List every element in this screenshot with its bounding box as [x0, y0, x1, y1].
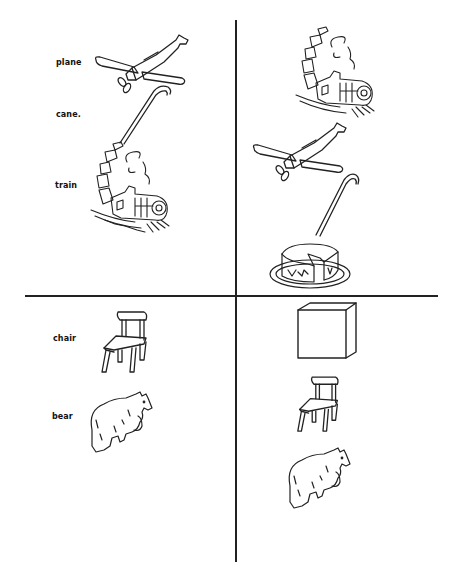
cane-picture — [314, 172, 364, 237]
worksheet-page: plane cane. train — [0, 0, 460, 581]
cake-picture — [268, 240, 353, 290]
label-plane: plane — [56, 58, 82, 67]
vertical-divider — [235, 20, 237, 562]
label-bear: bear — [52, 412, 73, 421]
bear-picture — [86, 390, 156, 455]
chair-picture — [100, 310, 150, 375]
box-picture — [296, 300, 358, 362]
bear-picture — [284, 446, 354, 511]
horizontal-divider — [25, 295, 438, 297]
train-picture — [85, 140, 175, 235]
label-chair: chair — [53, 334, 76, 343]
label-cane: cane. — [56, 110, 81, 119]
label-train: train — [55, 181, 77, 190]
train-picture — [290, 25, 380, 120]
chair-picture — [296, 372, 341, 437]
cane-picture — [118, 85, 173, 145]
